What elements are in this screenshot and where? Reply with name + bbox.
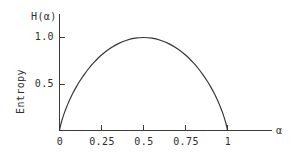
x-tick-label-0.25: 0.25 xyxy=(89,137,115,147)
x-tick-label-1: 1 xyxy=(225,137,231,147)
x-tick-label-0.5: 0.5 xyxy=(134,137,153,147)
y-tick-label-0.5: 0.5 xyxy=(22,79,54,89)
y-tick-label-1.0: 1.0 xyxy=(22,32,54,42)
entropy-curve-path xyxy=(60,38,228,131)
y-axis-title-entropy: Entropy xyxy=(16,69,26,114)
x-tick-label-0: 0 xyxy=(57,137,63,147)
x-tick-label-0.75: 0.75 xyxy=(173,137,199,147)
x-axis-title-alpha: α xyxy=(276,126,282,136)
y-axis-top-label: H(α) xyxy=(31,12,57,22)
entropy-figure: H(α) 1.0 0.5 Entropy 0 0.25 0.5 0.75 1 α xyxy=(0,0,292,160)
